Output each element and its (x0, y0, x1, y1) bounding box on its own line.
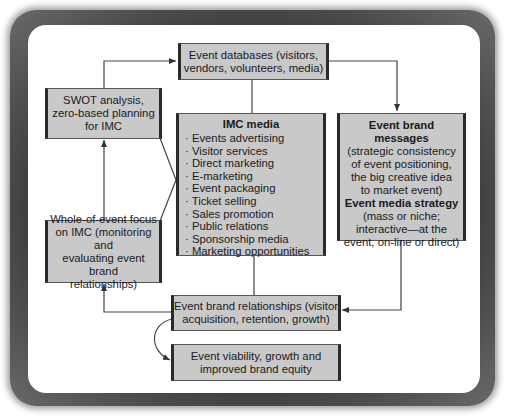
imc-media-list: Events advertising Visitor services Dire… (179, 132, 323, 258)
line-whole-to-imc (160, 180, 176, 221)
list-item: Sales promotion (185, 208, 323, 221)
node-text-line: acquisition, retention, growth) (174, 313, 338, 326)
arrow-databases-to-brand-messages (329, 61, 397, 111)
node-text-line: for IMC (48, 120, 159, 133)
node-event-viability: Event viability, growth and improved bra… (171, 344, 341, 381)
list-item: Visitor services (185, 145, 323, 158)
node-text-line: (strategic consistency (340, 145, 463, 158)
node-text-line: SWOT analysis, (48, 94, 159, 107)
node-text-line: the big creative idea (340, 171, 463, 184)
node-event-brand-relationships: Event brand relationships (visitor acqui… (171, 295, 341, 331)
node-text-line: event, on-line or direct) (340, 236, 463, 249)
arrow-brand-messages-to-relationships (342, 240, 401, 310)
node-title: IMC media (179, 118, 323, 131)
node-text-line: Event viability, growth and (174, 350, 338, 363)
node-text-line: improved brand equity (174, 363, 338, 376)
node-text-line: on IMC (monitoring and (48, 226, 159, 252)
node-text-line: evaluating event brand (48, 252, 159, 278)
list-item: Ticket selling (185, 195, 323, 208)
node-title: Event brand messages (340, 119, 463, 145)
list-item: Event packaging (185, 182, 323, 195)
list-item: E-marketing (185, 170, 323, 183)
node-text-line: Event databases (visitors, (181, 49, 326, 62)
arrow-relationships-to-viability (154, 319, 172, 360)
node-text-line: zero-based planning (48, 107, 159, 120)
node-subtitle: Event media strategy (340, 197, 463, 210)
node-text-line: (mass or niche; (340, 210, 463, 223)
node-text-line: Event brand relationships (visitor (174, 300, 338, 313)
node-text-line: Whole-of-event focus (48, 213, 159, 226)
node-event-brand-messages: Event brand messages (strategic consiste… (337, 113, 466, 241)
list-item: Marketing opportunities (185, 245, 323, 258)
arrow-swot-to-databases (104, 61, 176, 88)
list-item: Direct marketing (185, 157, 323, 170)
node-text-line: to market event) (340, 184, 463, 197)
node-imc-media: IMC media Events advertising Visitor ser… (176, 113, 326, 256)
list-item: Sponsorship media (185, 233, 323, 246)
node-text-line: relationships) (48, 278, 159, 291)
list-item: Public relations (185, 220, 323, 233)
node-event-databases: Event databases (visitors, vendors, volu… (178, 43, 329, 80)
node-text-line: vendors, volunteers, media) (181, 62, 326, 75)
node-text-line: interactive—at the (340, 223, 463, 236)
node-whole-of-event: Whole-of-event focus on IMC (monitoring … (45, 220, 162, 283)
line-swot-to-imc (160, 138, 176, 180)
list-item: Events advertising (185, 132, 323, 145)
node-text-line: of event positioning, (340, 158, 463, 171)
node-swot: SWOT analysis, zero-based planning for I… (45, 88, 162, 139)
